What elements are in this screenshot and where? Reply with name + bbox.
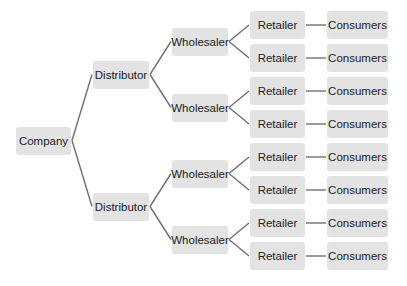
wholesaler-label: Wholesaler <box>171 36 229 48</box>
retailer-label: Retailer <box>258 19 298 31</box>
retailer-node: Retailer <box>250 44 305 72</box>
retailer-node: Retailer <box>250 11 305 39</box>
connector-line <box>229 108 249 125</box>
consumers-label: Consumers <box>328 19 387 31</box>
connector-line <box>229 42 249 59</box>
consumers-node: Consumers <box>327 44 388 72</box>
connector-line <box>72 75 92 141</box>
consumers-node: Consumers <box>327 176 388 204</box>
distributor-label: Distributor <box>95 69 147 81</box>
consumers-label: Consumers <box>328 52 387 64</box>
consumers-node: Consumers <box>327 11 388 39</box>
wholesaler-label: Wholesaler <box>171 168 229 180</box>
connector-line <box>229 174 249 191</box>
retailer-label: Retailer <box>258 217 298 229</box>
consumers-label: Consumers <box>328 118 387 130</box>
retailer-node: Retailer <box>250 242 305 270</box>
retailer-label: Retailer <box>258 250 298 262</box>
connector-line <box>150 174 171 207</box>
connector-line <box>229 25 249 42</box>
connector-line <box>72 141 92 207</box>
consumers-node: Consumers <box>327 143 388 171</box>
consumers-label: Consumers <box>328 184 387 196</box>
distributor-node: Distributor <box>93 61 149 89</box>
retailer-node: Retailer <box>250 143 305 171</box>
consumers-label: Consumers <box>328 250 387 262</box>
wholesaler-node: Wholesaler <box>172 160 228 188</box>
consumers-label: Consumers <box>328 151 387 163</box>
distributor-label: Distributor <box>95 201 147 213</box>
consumers-label: Consumers <box>328 85 387 97</box>
retailer-label: Retailer <box>258 151 298 163</box>
retailer-label: Retailer <box>258 85 298 97</box>
retailer-label: Retailer <box>258 118 298 130</box>
consumers-node: Consumers <box>327 77 388 105</box>
connector-line <box>229 157 249 174</box>
consumers-node: Consumers <box>327 242 388 270</box>
wholesaler-node: Wholesaler <box>172 94 228 122</box>
connector-line <box>150 42 171 75</box>
distributor-node: Distributor <box>93 193 149 221</box>
company-node: Company <box>16 127 71 155</box>
wholesaler-node: Wholesaler <box>172 28 228 56</box>
wholesaler-node: Wholesaler <box>172 226 228 254</box>
connector-line <box>229 240 249 257</box>
connector-line <box>150 207 171 240</box>
consumers-node: Consumers <box>327 209 388 237</box>
retailer-label: Retailer <box>258 184 298 196</box>
consumers-node: Consumers <box>327 110 388 138</box>
wholesaler-label: Wholesaler <box>171 102 229 114</box>
connector-line <box>229 223 249 240</box>
retailer-node: Retailer <box>250 209 305 237</box>
connector-line <box>229 91 249 108</box>
retailer-label: Retailer <box>258 52 298 64</box>
connector-line <box>150 75 171 108</box>
company-label: Company <box>19 135 68 147</box>
retailer-node: Retailer <box>250 176 305 204</box>
retailer-node: Retailer <box>250 110 305 138</box>
consumers-label: Consumers <box>328 217 387 229</box>
retailer-node: Retailer <box>250 77 305 105</box>
wholesaler-label: Wholesaler <box>171 234 229 246</box>
